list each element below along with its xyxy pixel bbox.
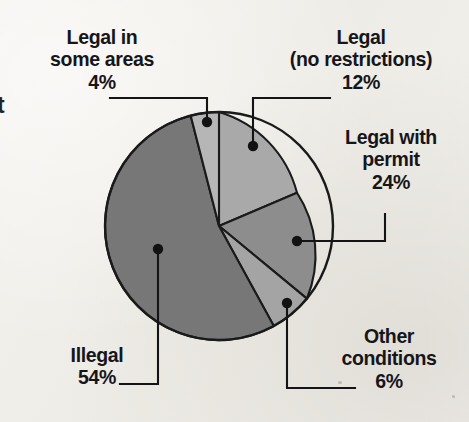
callout-line2-legal-in-some-areas: some areas — [24, 48, 180, 70]
callout-dot-legal-in-some-areas[interactable] — [202, 117, 212, 127]
callout-line1-illegal: Illegal — [42, 344, 152, 366]
callout-dot-other-conditions[interactable] — [282, 298, 292, 308]
pie-slices — [105, 112, 333, 340]
callout-label-legal-no-restrictions: Legal (no restrictions) 12% — [275, 26, 448, 93]
callout-line1-legal-in-some-areas: Legal in — [24, 26, 180, 48]
callout-value-legal-in-some-areas: 4% — [24, 71, 180, 93]
callout-value-legal-no-restrictions: 12% — [275, 71, 448, 93]
callout-dot-illegal[interactable] — [153, 244, 163, 254]
callout-line2-legal-no-restrictions: (no restrictions) — [275, 48, 448, 70]
callout-label-illegal: Illegal 54% — [42, 344, 152, 389]
callout-line2-other-conditions: conditions — [321, 347, 457, 369]
callout-line2-legal-with-permit: permit — [327, 148, 455, 170]
callout-line1-other-conditions: Other — [321, 325, 457, 347]
chart-page: t — [0, 0, 469, 422]
callout-value-legal-with-permit: 24% — [327, 171, 455, 193]
callout-label-legal-with-permit: Legal with permit 24% — [327, 126, 455, 193]
callout-dot-legal-with-permit[interactable] — [292, 236, 302, 246]
callout-dot-legal-no-restrictions[interactable] — [248, 141, 258, 151]
callout-value-illegal: 54% — [42, 366, 152, 388]
callout-value-other-conditions: 6% — [321, 370, 457, 392]
callout-line1-legal-no-restrictions: Legal — [275, 26, 448, 48]
callout-line1-legal-with-permit: Legal with — [327, 126, 455, 148]
callout-label-other-conditions: Other conditions 6% — [321, 325, 457, 392]
callout-label-legal-in-some-areas: Legal in some areas 4% — [24, 26, 180, 93]
